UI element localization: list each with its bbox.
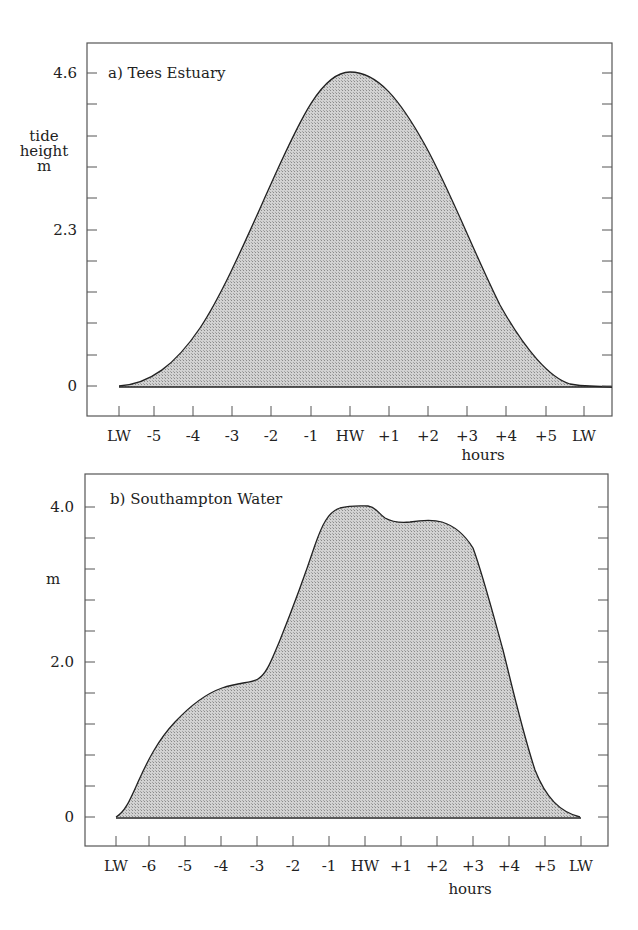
x-tick-label: -4	[186, 427, 201, 445]
chart-a-title: a) Tees Estuary	[108, 64, 226, 82]
x-tick-label: -4	[214, 857, 229, 875]
x-tick-label: +5	[535, 427, 557, 445]
x-tick-label: +1	[378, 427, 400, 445]
x-tick-label: -6	[142, 857, 157, 875]
tide-curves-figure: a) Tees Estuary 4.6 2.3 0 tide height m …	[0, 0, 638, 930]
chart-b-y-label-zero: 0	[64, 808, 74, 826]
x-tick-label: +4	[498, 857, 520, 875]
chart-a-y-label-mid: 2.3	[53, 221, 77, 239]
x-tick-label: +2	[426, 857, 448, 875]
x-tick-label: HW	[351, 857, 380, 875]
chart-b-title: b) Southampton Water	[110, 490, 283, 508]
chart-a-x-ticks	[119, 406, 584, 416]
x-tick-label: -1	[304, 427, 319, 445]
x-tick-label: -3	[225, 427, 240, 445]
chart-a-x-tick-labels: LW -5 -4 -3 -2 -1 HW +1 +2 +3 +4 +5 LW	[107, 427, 597, 445]
x-tick-label: -1	[322, 857, 337, 875]
chart-a-ylabel-line3: m	[37, 157, 51, 175]
chart-a-y-label-max: 4.6	[53, 64, 77, 82]
chart-b-x-ticks	[116, 836, 581, 846]
x-tick-label: LW	[572, 427, 597, 445]
chart-b-y-label-mid: 2.0	[50, 653, 74, 671]
chart-b-ylabel: m	[46, 570, 60, 588]
x-tick-label: +4	[495, 427, 517, 445]
chart-b-tide-area	[116, 506, 580, 817]
chart-a-tide-area	[119, 72, 612, 387]
chart-a-xlabel: hours	[461, 446, 504, 464]
x-tick-label: +2	[417, 427, 439, 445]
x-tick-label: -2	[264, 427, 279, 445]
x-tick-label: -3	[250, 857, 265, 875]
chart-b-y-label-max: 4.0	[50, 498, 74, 516]
chart-b-xlabel: hours	[448, 880, 491, 898]
chart-b-x-tick-labels: LW -6 -5 -4 -3 -2 -1 HW +1 +2 +3 +4 +5 L…	[104, 857, 594, 875]
chart-a-tees-estuary: a) Tees Estuary 4.6 2.3 0 tide height m …	[20, 43, 612, 464]
x-tick-label: +5	[534, 857, 556, 875]
x-tick-label: +1	[390, 857, 412, 875]
x-tick-label: +3	[456, 427, 478, 445]
x-tick-label: -5	[178, 857, 193, 875]
x-tick-label: LW	[107, 427, 132, 445]
x-tick-label: LW	[569, 857, 594, 875]
x-tick-label: +3	[462, 857, 484, 875]
chart-b-southampton-water: b) Southampton Water 4.0 2.0 0 m LW -6 -…	[46, 474, 608, 898]
x-tick-label: LW	[104, 857, 129, 875]
chart-a-y-label-zero: 0	[67, 377, 77, 395]
x-tick-label: HW	[336, 427, 365, 445]
x-tick-label: -5	[147, 427, 162, 445]
x-tick-label: -2	[286, 857, 301, 875]
